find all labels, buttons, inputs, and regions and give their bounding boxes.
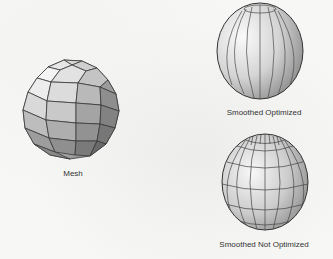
mesh-sphere-figure — [20, 56, 124, 162]
smooth-sphere-grid-icon — [219, 132, 311, 232]
smoothed-not-optimized-label: Smoothed Not Optimized — [219, 240, 308, 249]
faceted-sphere-icon — [20, 56, 124, 162]
smooth-sphere-meridians-icon — [214, 1, 306, 101]
smoothed-optimized-label: Smoothed Optimized — [227, 108, 302, 117]
mesh-label: Mesh — [63, 169, 83, 178]
smoothed-optimized-figure — [214, 1, 306, 101]
smoothed-not-optimized-figure — [219, 132, 311, 232]
